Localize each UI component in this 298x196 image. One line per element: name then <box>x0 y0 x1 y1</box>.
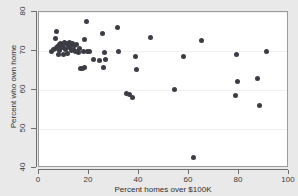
data-point <box>84 19 89 24</box>
data-points-layer <box>39 12 287 166</box>
x-axis-title: Percent homes over $100K <box>38 185 288 194</box>
data-point <box>97 58 102 63</box>
x-tick-20 <box>88 170 89 174</box>
data-point <box>82 37 87 42</box>
data-point <box>257 103 262 108</box>
x-tick-label-60: 60 <box>176 175 200 184</box>
data-point <box>264 49 269 54</box>
data-point <box>199 38 204 43</box>
data-point <box>100 31 105 36</box>
y-tick-50 <box>31 128 36 129</box>
data-point <box>103 57 108 62</box>
y-tick-60 <box>31 89 36 90</box>
data-point <box>234 52 239 57</box>
plot-panel <box>38 11 288 167</box>
y-tick-label-text: 70 <box>20 46 28 55</box>
y-tick-label-text: 80 <box>20 7 28 16</box>
data-point <box>233 93 238 98</box>
data-point <box>53 36 58 41</box>
data-point <box>133 54 138 59</box>
data-point <box>54 29 59 34</box>
data-point <box>87 49 92 54</box>
data-point <box>82 65 87 70</box>
data-point <box>134 67 139 72</box>
y-tick-label-text: 60 <box>20 85 28 94</box>
scatter-plot-figure: 4050607080 020406080100 Percent homes ov… <box>0 0 298 196</box>
x-tick-40 <box>138 170 139 174</box>
data-point <box>116 49 121 54</box>
x-tick-80 <box>238 170 239 174</box>
x-tick-100 <box>288 170 289 174</box>
x-tick-label-20: 20 <box>76 175 100 184</box>
y-tick-70 <box>31 50 36 51</box>
x-axis-line <box>38 169 288 170</box>
data-point <box>181 54 186 59</box>
x-tick-label-40: 40 <box>126 175 150 184</box>
y-tick-label-40: 40 <box>0 163 28 171</box>
data-point <box>130 95 135 100</box>
data-point <box>191 155 196 160</box>
data-point <box>148 35 153 40</box>
x-tick-label-0: 0 <box>26 175 50 184</box>
data-point <box>172 87 177 92</box>
x-tick-60 <box>188 170 189 174</box>
x-tick-0 <box>38 170 39 174</box>
data-point <box>91 57 96 62</box>
y-tick-80 <box>31 11 36 12</box>
data-point <box>235 79 240 84</box>
x-tick-label-80: 80 <box>226 175 250 184</box>
y-tick-label-text: 40 <box>20 163 28 172</box>
data-point <box>115 25 120 30</box>
data-point <box>255 76 260 81</box>
x-tick-label-100: 100 <box>276 175 298 184</box>
data-point <box>101 65 106 70</box>
y-axis-title: Percent who own home <box>9 12 18 162</box>
data-point <box>102 50 107 55</box>
y-tick-40 <box>31 167 36 168</box>
y-axis-line <box>36 11 37 167</box>
y-tick-label-text: 50 <box>20 124 28 133</box>
